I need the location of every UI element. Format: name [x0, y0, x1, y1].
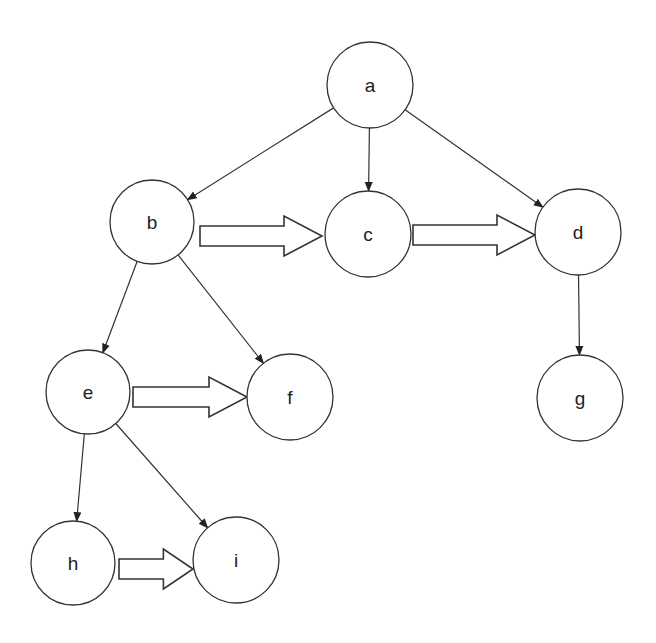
node-label: b [147, 212, 158, 233]
edge-d-to-g [579, 275, 580, 355]
node-e: e [46, 350, 130, 434]
node-label: g [575, 388, 586, 409]
tree-edges [77, 108, 580, 528]
sibling-arrow-e-to-f [133, 377, 247, 417]
edge-a-to-d [405, 110, 543, 207]
node-label: e [83, 382, 94, 403]
node-i: i [193, 517, 279, 603]
edge-a-to-b [188, 108, 334, 200]
edge-b-to-e [103, 261, 137, 352]
node-h: h [31, 521, 115, 605]
tree-nodes: abcdefghi [31, 42, 623, 605]
edge-e-to-h [77, 434, 85, 521]
sibling-arrow-h-to-i [119, 549, 193, 589]
node-b: b [110, 180, 194, 264]
edge-b-to-f [178, 255, 263, 363]
edge-a-to-c [369, 128, 370, 191]
node-c: c [325, 191, 411, 277]
node-g: g [537, 355, 623, 441]
node-label: a [365, 75, 376, 96]
node-f: f [247, 354, 333, 440]
node-label: i [234, 550, 238, 571]
node-label: h [68, 553, 79, 574]
tree-diagram: abcdefghi [0, 0, 656, 643]
node-d: d [535, 189, 621, 275]
node-label: f [287, 387, 293, 408]
sibling-arrow-b-to-c [200, 216, 322, 256]
node-label: c [363, 224, 373, 245]
sibling-arrow-c-to-d [413, 215, 535, 255]
node-label: d [573, 222, 584, 243]
edge-e-to-i [116, 424, 208, 528]
node-a: a [327, 42, 413, 128]
